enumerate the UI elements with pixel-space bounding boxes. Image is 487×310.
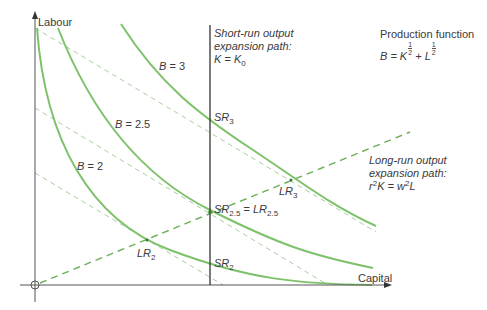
- y-axis-label: Labour: [38, 16, 72, 29]
- production-function-title: Production function: [380, 28, 474, 41]
- isoquant-b2: [37, 28, 372, 285]
- point-label-lr3: LR3: [279, 185, 298, 198]
- curve-label-b3: B = 3: [159, 60, 185, 73]
- point-label-lr2: LR2: [137, 247, 156, 260]
- curve-label-b2: B = 2: [77, 160, 103, 173]
- curve-label-b2.5: B = 2.5: [115, 118, 150, 131]
- point-label-sr25-lr25: SR2.5 = LR2.5: [214, 203, 278, 216]
- short-run-line2: expansion path:: [214, 40, 294, 53]
- x-axis-label: Capital: [358, 272, 392, 285]
- long-run-equation: r2K = w2L: [369, 180, 447, 193]
- isocost-line-3: [35, 28, 376, 232]
- short-run-label: Short-run output expansion path: K = K0: [214, 27, 294, 66]
- short-run-line1: Short-run output: [214, 27, 294, 40]
- production-function: Production function B = K12 + L12: [380, 28, 474, 63]
- long-run-label: Long-run output expansion path: r2K = w2…: [369, 154, 447, 193]
- point-lr3: [290, 179, 293, 182]
- point-label-sr2: SR2: [214, 257, 234, 270]
- point-sr25-lr25: [208, 210, 212, 214]
- long-run-line1: Long-run output: [369, 154, 447, 167]
- short-run-equation: K = K0: [214, 53, 294, 66]
- point-label-sr3: SR3: [214, 111, 234, 124]
- production-function-equation: B = K12 + L12: [380, 41, 474, 63]
- point-lr2: [146, 239, 149, 242]
